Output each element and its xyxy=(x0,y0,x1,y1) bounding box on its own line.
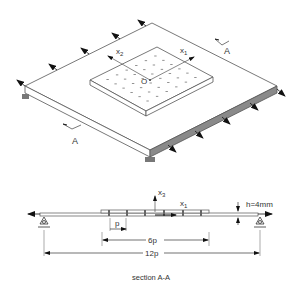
section-axis-x1-label: x1 xyxy=(180,199,188,209)
patch-dot xyxy=(194,77,196,78)
patch-dot xyxy=(156,96,158,97)
patch-dot xyxy=(170,64,172,65)
patch-dot xyxy=(126,70,128,71)
patch-dot xyxy=(158,87,160,88)
patch-dot xyxy=(159,78,161,79)
patch-dot xyxy=(186,73,188,74)
svg-text:A: A xyxy=(72,136,78,146)
patch-dot xyxy=(145,60,147,61)
span-12p-label: 12p xyxy=(145,249,159,258)
section-plate xyxy=(40,213,258,216)
patch-dot xyxy=(106,79,108,80)
patch-dot xyxy=(124,79,126,80)
patch-dot xyxy=(166,91,168,92)
patch-dot xyxy=(146,101,148,102)
patch-dot xyxy=(140,87,142,88)
plate-diagram: O x1 x2 A A xyxy=(0,0,301,297)
patch-dot xyxy=(143,69,145,70)
span-6p-label: 6p xyxy=(148,236,157,245)
patch-dot xyxy=(122,88,124,89)
patch-dot xyxy=(135,65,137,66)
support-right-symbol xyxy=(254,217,266,227)
patch-dot xyxy=(162,60,164,61)
pitch-label: p xyxy=(115,219,120,228)
patch-dot xyxy=(134,74,136,75)
patch-dot xyxy=(185,82,187,83)
patch-dot xyxy=(169,73,171,74)
patch-dot xyxy=(178,69,180,70)
section-view: x3 x1 h=4mm p 6p 12p section A-A xyxy=(28,188,273,282)
patch-dot xyxy=(138,96,140,97)
patch-dot xyxy=(150,83,152,84)
patch-dot xyxy=(177,78,179,79)
thickness-label: h=4mm xyxy=(246,200,273,209)
section-axis-x3-label: x3 xyxy=(158,188,166,198)
patch-dot xyxy=(130,92,132,93)
section-mark-right: A xyxy=(215,39,230,56)
svg-text:A: A xyxy=(224,46,230,56)
patch-dot xyxy=(132,83,134,84)
section-mark-left: A xyxy=(63,124,81,146)
section-caption: section A-A xyxy=(132,273,170,282)
patch-dot xyxy=(116,75,118,76)
patch-dot xyxy=(151,74,153,75)
patch-dot xyxy=(167,82,169,83)
support-left-block xyxy=(22,94,29,99)
support-bottom-block xyxy=(145,157,155,162)
support-left-symbol xyxy=(38,217,50,227)
patch-dot xyxy=(153,65,155,66)
patch-dot xyxy=(154,56,156,57)
patch-dot xyxy=(175,87,177,88)
patch-dot xyxy=(148,92,150,93)
patch-dot xyxy=(114,84,116,85)
patch-dot xyxy=(161,69,163,70)
origin-label: O xyxy=(141,77,147,86)
